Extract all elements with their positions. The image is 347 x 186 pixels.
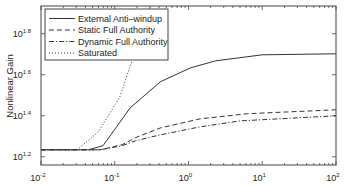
legend-label: External Anti–windup [78, 14, 162, 24]
legend-label: Static Full Authority [78, 25, 156, 35]
y-tick-label: 101.4 [13, 110, 32, 121]
x-tick-label: 100 [179, 172, 193, 183]
y-axis-label: Nonlinear Gain [4, 54, 15, 117]
y-tick-label: 101.6 [13, 69, 32, 80]
x-tick-label: 10-1 [104, 172, 120, 183]
legend-label: Saturated [78, 48, 117, 58]
x-tick-label: 10-2 [30, 172, 46, 183]
line-chart: 10-210-1100101102 101.2101.4101.6101.8 N… [0, 0, 347, 186]
x-tick-label: 101 [253, 172, 267, 183]
chart-container: 10-210-1100101102 101.2101.4101.6101.8 N… [0, 0, 347, 186]
y-tick-label: 101.8 [13, 28, 32, 39]
x-axis-tick-labels: 10-210-1100101102 [30, 172, 340, 183]
legend-label: Dynamic Full Authority [78, 37, 168, 47]
x-tick-label: 102 [326, 172, 340, 183]
y-axis-tick-labels: 101.2101.4101.6101.8 [13, 28, 32, 162]
y-tick-label: 101.2 [13, 151, 32, 162]
legend: External Anti–windupStatic Full Authorit… [45, 9, 168, 60]
